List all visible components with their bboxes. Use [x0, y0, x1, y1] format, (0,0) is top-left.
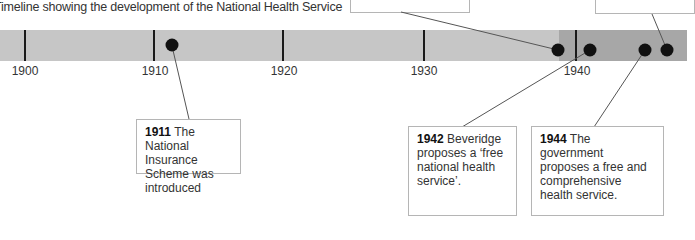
event-dot-1942 [584, 44, 597, 57]
event-box-1942: 1942 Beveridge proposes a ‘free national… [408, 126, 517, 216]
event-box-1911: 1911 The National Insurance Scheme was i… [136, 119, 241, 174]
event-year: 1944 [540, 132, 567, 146]
event-dot-1944 [639, 44, 652, 57]
event-year: 1911 [145, 125, 171, 139]
event-year: 1942 [417, 132, 444, 146]
event-dot-1946 [661, 44, 674, 57]
event-dot-1911 [166, 39, 179, 52]
event-box-1944: 1944 The government proposes a free and … [531, 126, 664, 216]
event-dot-1939 [552, 44, 565, 57]
